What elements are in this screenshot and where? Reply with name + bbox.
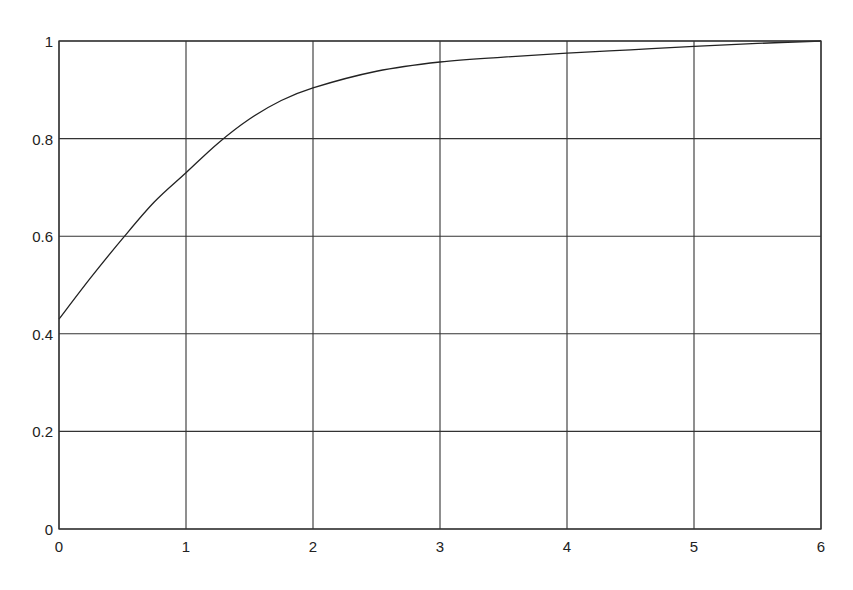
x-tick-label: 3 <box>436 538 444 555</box>
y-tick-label: 0.6 <box>32 228 53 245</box>
y-tick-label: 0 <box>45 521 53 538</box>
x-tick-label: 1 <box>182 538 190 555</box>
x-tick-label: 4 <box>563 538 571 555</box>
y-tick-label: 0.8 <box>32 131 53 148</box>
x-tick-label: 0 <box>55 538 63 555</box>
x-tick-label: 6 <box>817 538 825 555</box>
x-axis-ticks: 0123456 <box>55 538 825 555</box>
x-tick-label: 2 <box>309 538 317 555</box>
line-chart: 0123456 00.20.40.60.81 <box>0 0 853 590</box>
y-tick-label: 0.4 <box>32 326 53 343</box>
y-axis-ticks: 00.20.40.60.81 <box>32 33 53 538</box>
y-tick-label: 0.2 <box>32 423 53 440</box>
y-tick-label: 1 <box>45 33 53 50</box>
grid-lines <box>59 41 821 529</box>
x-tick-label: 5 <box>690 538 698 555</box>
